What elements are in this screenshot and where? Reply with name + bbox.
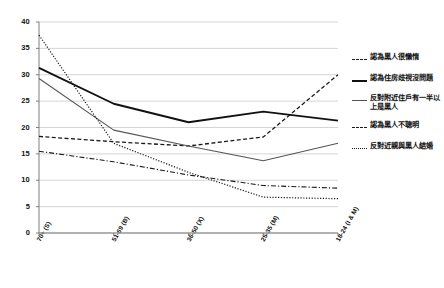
legend-item-label: 認為黑人不聰明: [370, 120, 419, 129]
legend-line-swatch-icon: [352, 123, 367, 132]
legend-line-swatch-icon: [352, 55, 367, 64]
legend-item-label: 反對近親與黑人結婚: [370, 141, 433, 150]
legend-line-swatch-icon: [352, 96, 367, 105]
legend-item[interactable]: 反對附近住戶有一半以上是黑人: [352, 93, 444, 112]
legend-item[interactable]: 認為黑人很懶惰: [352, 52, 444, 64]
legend-item[interactable]: 認為住房歧視沒問題: [352, 73, 444, 85]
legend-line-swatch-icon: [352, 144, 367, 153]
series-line: [39, 68, 338, 122]
series-line: [39, 151, 338, 188]
chart-legend: 認為黑人很懶惰認為住房歧視沒問題反對附近住戶有一半以上是黑人認為黑人不聰明反對近…: [352, 52, 444, 161]
series-line: [39, 75, 338, 146]
legend-item-label: 認為黑人很懶惰: [370, 52, 419, 61]
line-chart: 0510152025303540 70+ (S)51-69 (B)36-50 (…: [0, 0, 444, 288]
legend-item-label: 反對附近住戶有一半以上是黑人: [370, 93, 444, 112]
legend-line-swatch-icon: [352, 76, 367, 85]
series-line: [39, 78, 338, 160]
series-line: [39, 35, 338, 199]
legend-item[interactable]: 認為黑人不聰明: [352, 120, 444, 132]
legend-item-label: 認為住房歧視沒問題: [370, 73, 433, 82]
legend-item[interactable]: 反對近親與黑人結婚: [352, 141, 444, 153]
